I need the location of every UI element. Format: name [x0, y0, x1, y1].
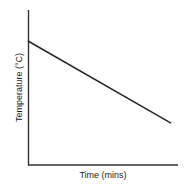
- x-axis-label: Time (mins): [28, 170, 178, 180]
- chart-plot-area: [0, 0, 184, 190]
- line-chart-figure: Temperature (°C) Time (mins): [0, 0, 184, 190]
- data-line-cooling-curve: [28, 41, 171, 123]
- y-axis-label: Temperature (°C): [13, 10, 26, 165]
